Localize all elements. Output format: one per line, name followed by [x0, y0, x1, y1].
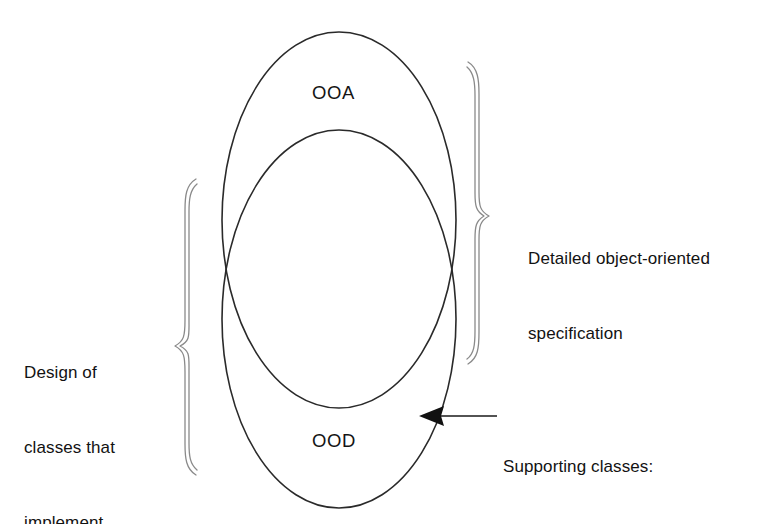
set-label-ooa: OOA — [312, 82, 355, 104]
left-annotation-line-3: implement — [24, 510, 174, 524]
left-annotation-text: Design of classes that implement the sys… — [24, 310, 174, 524]
right-annotation-line-2: specification — [528, 321, 774, 346]
arrow-callout-icon — [419, 406, 497, 426]
arrow-annotation-text: Supporting classes: collections, indexes… — [503, 404, 773, 524]
arrow-annotation-line-1: Supporting classes: — [503, 454, 773, 479]
venn-diagram: OOA OOD Design of classes that implement… — [0, 0, 777, 524]
right-annotation-text: Detailed object-oriented specification — [528, 196, 774, 396]
right-annotation-line-1: Detailed object-oriented — [528, 246, 774, 271]
right-brace-icon — [467, 62, 489, 364]
left-brace-icon — [175, 179, 197, 475]
set-label-ood: OOD — [312, 430, 356, 452]
left-annotation-line-1: Design of — [24, 360, 174, 385]
left-annotation-line-2: classes that — [24, 435, 174, 460]
